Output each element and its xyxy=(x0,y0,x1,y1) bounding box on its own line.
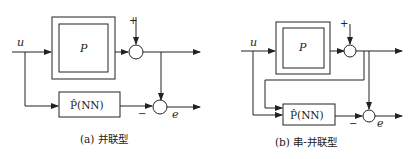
plus-sign: + xyxy=(340,18,348,29)
diagram-b-series-parallel: u P + P̂(NN) − e (b) 串-并联型 xyxy=(241,18,402,148)
plus-sign: + xyxy=(129,15,137,26)
plant-label: P xyxy=(298,41,307,54)
minus-sign: − xyxy=(349,118,357,129)
error-label: e xyxy=(377,117,384,130)
error-label: e xyxy=(172,108,179,121)
nn-model-label: P̂(NN) xyxy=(70,99,104,111)
summing-junction xyxy=(344,45,356,57)
caption-a: (a) 并联型 xyxy=(80,133,128,145)
error-junction xyxy=(153,100,167,114)
identification-structures-diagram: u P + P̂(NN) − e (a) 并联型 u P xyxy=(0,0,413,159)
minus-sign: − xyxy=(138,108,146,119)
input-label: u xyxy=(17,36,24,49)
caption-b: (b) 串-并联型 xyxy=(275,136,337,148)
diagram-a-parallel: u P + P̂(NN) − e (a) 并联型 xyxy=(12,15,200,145)
plant-label: P xyxy=(79,42,88,55)
error-junction xyxy=(363,110,375,122)
nn-model-label: P̂(NN) xyxy=(290,109,324,121)
input-label: u xyxy=(250,36,257,49)
summing-junction xyxy=(129,45,143,59)
